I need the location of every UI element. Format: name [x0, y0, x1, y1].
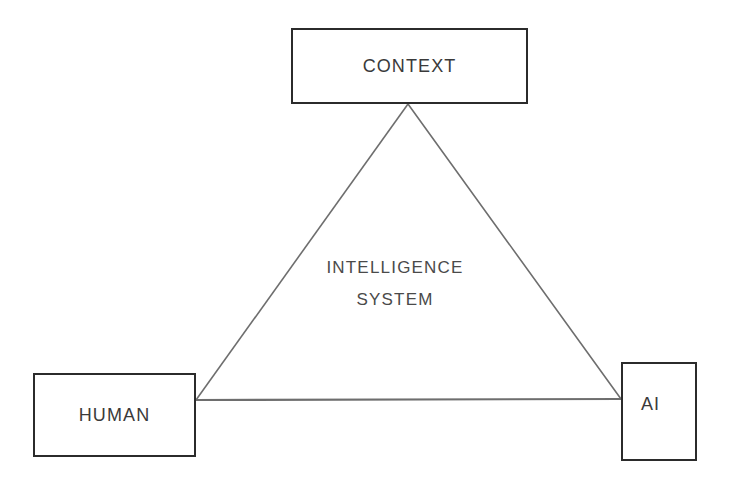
center-caption-line-2: SYSTEM [275, 284, 515, 316]
diagram-canvas: CONTEXT HUMAN AI INTELLIGENCE SYSTEM [0, 0, 731, 482]
node-context[interactable]: CONTEXT [291, 28, 528, 104]
node-ai-label: AI [641, 394, 660, 415]
edge-human-ai [196, 399, 621, 400]
center-caption: INTELLIGENCE SYSTEM [275, 252, 515, 316]
node-context-label: CONTEXT [363, 56, 457, 77]
node-ai[interactable]: AI [621, 362, 697, 461]
node-human-label: HUMAN [79, 405, 151, 426]
center-caption-line-1: INTELLIGENCE [275, 252, 515, 284]
node-human[interactable]: HUMAN [33, 373, 196, 457]
